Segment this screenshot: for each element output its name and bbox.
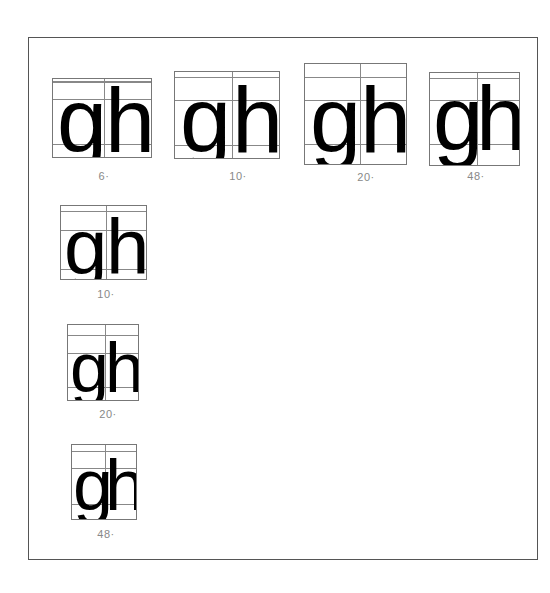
point-size-caption: 10·: [92, 288, 120, 300]
point-size-caption: 6·: [92, 170, 116, 182]
point-size-caption: 48·: [462, 170, 490, 182]
glyph-g: g: [64, 208, 107, 280]
glyph-h: h: [105, 333, 139, 401]
glyph-g: g: [70, 333, 109, 401]
glyph-h: h: [360, 74, 407, 165]
specimen-box: g h: [174, 71, 280, 159]
specimen-box: g h: [52, 78, 152, 158]
glyph-g: g: [310, 74, 361, 165]
specimen-box: g h: [71, 444, 137, 520]
glyph-g: g: [57, 78, 107, 158]
glyph-h: h: [105, 449, 137, 520]
glyph-h: h: [232, 74, 280, 159]
point-size-caption: 20·: [352, 171, 380, 183]
point-size-caption: 10·: [224, 170, 252, 182]
glyph-g: g: [180, 74, 231, 159]
point-size-caption: 48·: [92, 528, 120, 540]
glyph-h: h: [476, 74, 520, 164]
glyph-h: h: [106, 208, 147, 280]
point-size-caption: 20·: [94, 408, 122, 420]
specimen-box: g h: [67, 324, 139, 401]
specimen-box: g h: [304, 63, 407, 165]
specimen-box: g h: [60, 205, 147, 280]
glyph-h: h: [105, 78, 152, 158]
glyph-g: g: [433, 74, 481, 164]
specimen-box: g h: [429, 72, 520, 166]
